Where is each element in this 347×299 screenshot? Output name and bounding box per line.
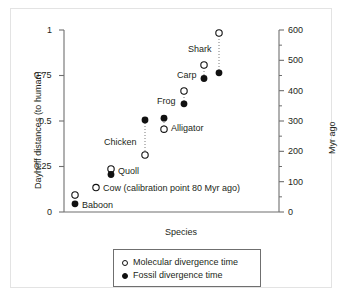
left-axis-ticks	[59, 30, 64, 212]
y-right-tick-500: 500	[288, 56, 303, 65]
annotation-frog: Frog	[157, 96, 176, 106]
annotation-alligator: Alligator	[171, 123, 204, 133]
annotation-cow: Cow (calibration point 80 Myr ago)	[103, 183, 240, 193]
point-molecular-frog	[181, 88, 187, 94]
x-axis-title: Species	[165, 227, 197, 237]
annotation-quoll: Quoll	[118, 166, 139, 176]
point-molecular-carp	[201, 62, 207, 68]
chart-legend: Molecular divergence time Fossil diverge…	[113, 249, 261, 287]
y-right-tick-100: 100	[288, 178, 303, 187]
legend-item-molecular: Molecular divergence time	[122, 257, 238, 267]
open-circle-icon	[122, 260, 128, 266]
point-molecular-alligator	[161, 126, 167, 132]
y-axis-left-title: Dayhoff distances (to human)	[33, 72, 43, 189]
annotation-carp: Carp	[177, 70, 197, 80]
y-right-tick-400: 400	[288, 87, 303, 96]
y-left-tick-0: 0	[47, 208, 52, 217]
legend-item-fossil: Fossil divergence time	[122, 270, 223, 280]
y-left-tick-1: 1	[47, 26, 52, 35]
point-fossil-frog	[181, 100, 188, 107]
right-axis-major-ticks	[279, 30, 284, 212]
filled-circle-icon	[122, 273, 128, 279]
y-right-tick-600: 600	[288, 26, 303, 35]
scatter-plot	[11, 9, 331, 287]
point-molecular-chicken	[142, 152, 148, 158]
point-molecular-cow	[93, 184, 99, 190]
point-fossil-carp	[201, 75, 208, 82]
y-right-tick-200: 200	[288, 147, 303, 156]
point-fossil-quoll	[108, 171, 115, 178]
annotation-baboon: Baboon	[82, 200, 113, 210]
point-fossil-shark	[216, 69, 223, 76]
point-fossil-chicken	[142, 117, 149, 124]
annotation-chicken: Chicken	[104, 137, 137, 147]
point-fossil-alligator	[161, 115, 168, 122]
annotation-shark: Shark	[188, 44, 212, 54]
legend-label-molecular: Molecular divergence time	[133, 257, 238, 267]
legend-label-fossil: Fossil divergence time	[133, 270, 223, 280]
figure-frame: 1 0.75 0.5 0.25 0 600 500 400 300 200 10…	[10, 8, 332, 288]
point-molecular-baboon	[72, 192, 78, 198]
y-axis-right-title: Myr ago	[327, 121, 337, 154]
point-molecular-shark	[216, 30, 222, 36]
point-fossil-baboon	[72, 200, 79, 207]
figure-canvas: 1 0.75 0.5 0.25 0 600 500 400 300 200 10…	[0, 0, 347, 299]
y-right-tick-0: 0	[288, 208, 293, 217]
y-right-tick-300: 300	[288, 117, 303, 126]
series-molecular-divergence-time	[72, 30, 222, 198]
